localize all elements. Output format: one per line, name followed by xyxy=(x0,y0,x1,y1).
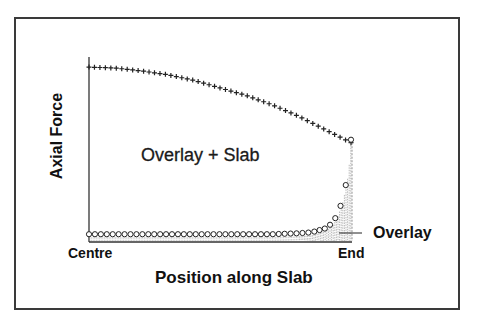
circle-marker xyxy=(122,232,127,237)
plus-marker xyxy=(179,75,184,80)
annotation-overlay-plus-slab: Overlay + Slab xyxy=(141,145,260,166)
plus-marker xyxy=(267,101,272,106)
circle-marker xyxy=(187,232,192,237)
plus-marker xyxy=(245,93,250,98)
circle-marker xyxy=(158,232,163,237)
plus-marker xyxy=(92,65,97,70)
plus-marker xyxy=(147,70,152,75)
plus-marker xyxy=(321,126,326,131)
plus-marker xyxy=(327,129,332,134)
plus-marker xyxy=(256,97,261,102)
plus-marker xyxy=(207,82,212,87)
circle-marker xyxy=(169,232,174,237)
circle-marker xyxy=(282,231,287,236)
circle-marker xyxy=(223,232,228,237)
circle-marker xyxy=(175,232,180,237)
plus-marker xyxy=(103,65,108,70)
plus-marker xyxy=(163,72,168,77)
circle-marker xyxy=(199,232,204,237)
circle-marker xyxy=(288,231,293,236)
plus-marker xyxy=(283,108,288,113)
circle-marker xyxy=(98,232,103,237)
plus-marker xyxy=(332,132,337,137)
circle-marker xyxy=(134,232,139,237)
plus-marker xyxy=(288,110,293,115)
circle-marker xyxy=(306,230,311,235)
plus-marker xyxy=(239,92,244,97)
series-overlay-plus-slab xyxy=(87,65,354,146)
circle-marker xyxy=(229,232,234,237)
circle-marker xyxy=(312,229,317,234)
plus-marker xyxy=(343,137,348,142)
x-axis-label: Position along Slab xyxy=(155,268,313,288)
plus-marker xyxy=(234,90,239,95)
plus-marker xyxy=(87,65,92,70)
circle-marker xyxy=(146,232,151,237)
plus-marker xyxy=(185,76,190,81)
circle-marker xyxy=(116,232,121,237)
circle-marker xyxy=(217,232,222,237)
plus-marker xyxy=(316,124,321,129)
circle-marker xyxy=(348,137,353,142)
circle-marker xyxy=(270,232,275,237)
plus-marker xyxy=(250,95,255,100)
plus-marker xyxy=(97,65,102,70)
plus-marker xyxy=(174,74,179,79)
circle-marker xyxy=(264,232,269,237)
plus-marker xyxy=(108,65,113,70)
plus-marker xyxy=(196,79,201,84)
plus-marker xyxy=(125,67,130,72)
plus-marker xyxy=(201,81,206,86)
circle-marker xyxy=(343,182,348,187)
plus-marker xyxy=(261,99,266,104)
plus-marker xyxy=(228,89,233,94)
circle-marker xyxy=(294,231,299,236)
plus-marker xyxy=(130,67,135,72)
circle-marker xyxy=(163,232,168,237)
plus-marker xyxy=(299,115,304,120)
circle-marker xyxy=(205,232,210,237)
x-tick-end: End xyxy=(338,245,364,261)
plus-marker xyxy=(190,78,195,83)
circle-marker xyxy=(211,232,216,237)
circle-marker xyxy=(128,232,133,237)
plus-marker xyxy=(223,87,228,92)
y-axis-label: Axial Force xyxy=(48,93,66,179)
circle-marker xyxy=(104,232,109,237)
plus-marker xyxy=(119,66,124,71)
circle-marker xyxy=(152,232,157,237)
circle-marker xyxy=(92,232,97,237)
plus-marker xyxy=(136,68,141,73)
plus-marker xyxy=(338,135,343,140)
plus-marker xyxy=(157,71,162,76)
plus-marker xyxy=(305,118,310,123)
circle-marker xyxy=(193,232,198,237)
x-tick-centre: Centre xyxy=(68,245,112,261)
plus-marker xyxy=(310,121,315,126)
plus-marker xyxy=(141,69,146,74)
circle-marker xyxy=(86,232,91,237)
circle-marker xyxy=(327,222,332,227)
circle-marker xyxy=(258,232,263,237)
circle-marker xyxy=(110,232,115,237)
circle-marker xyxy=(333,216,338,221)
circle-marker xyxy=(322,226,327,231)
annotation-overlay: Overlay xyxy=(373,224,432,242)
circle-marker xyxy=(300,230,305,235)
circle-marker xyxy=(252,232,257,237)
circle-marker xyxy=(317,227,322,232)
circle-marker xyxy=(181,232,186,237)
plus-marker xyxy=(212,84,217,89)
circle-marker xyxy=(235,232,240,237)
circle-marker xyxy=(246,232,251,237)
plus-marker xyxy=(218,85,223,90)
circle-marker xyxy=(276,231,281,236)
plus-marker xyxy=(168,73,173,78)
circle-marker xyxy=(338,203,343,208)
plus-marker xyxy=(272,103,277,108)
circle-marker xyxy=(140,232,145,237)
plus-marker xyxy=(114,66,119,71)
circle-marker xyxy=(241,232,246,237)
plus-marker xyxy=(152,70,157,75)
plus-marker xyxy=(278,106,283,111)
